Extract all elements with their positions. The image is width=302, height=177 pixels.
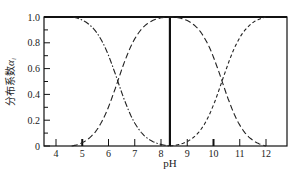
distribution-coefficient-chart: 00.20.40.60.81.0 456789101112 pH 分布系数αi xyxy=(0,0,302,177)
x-tick-label: 7 xyxy=(132,148,137,159)
svg-text:分布系数αi: 分布系数αi xyxy=(4,58,18,106)
x-tick-label: 10 xyxy=(209,148,219,159)
x-tick-label: 6 xyxy=(106,148,111,159)
x-axis-ticks: 456789101112 xyxy=(54,139,272,159)
y-tick-label: 0.8 xyxy=(28,37,41,48)
y-axis-label-sub: i xyxy=(10,58,18,60)
x-tick-label: 4 xyxy=(54,148,59,159)
curve-0 xyxy=(73,17,169,146)
x-tick-label: 9 xyxy=(185,148,190,159)
plot-frame xyxy=(44,17,287,146)
y-axis-label-main: 分布系数 xyxy=(4,66,16,106)
y-tick-label: 0.6 xyxy=(28,63,41,74)
y-tick-label: 0 xyxy=(35,141,40,152)
x-tick-label: 5 xyxy=(80,148,85,159)
x-tick-label: 12 xyxy=(261,148,271,159)
y-tick-label: 0.4 xyxy=(28,89,41,100)
y-tick-label: 1.0 xyxy=(28,12,41,23)
x-tick-label: 11 xyxy=(235,148,245,159)
x-axis-label: pH xyxy=(163,157,177,169)
curve-2 xyxy=(170,17,266,146)
y-axis-label: 分布系数αi xyxy=(4,58,18,106)
y-tick-label: 0.2 xyxy=(28,115,41,126)
y-axis-ticks: 00.20.40.60.81.0 xyxy=(28,12,51,152)
